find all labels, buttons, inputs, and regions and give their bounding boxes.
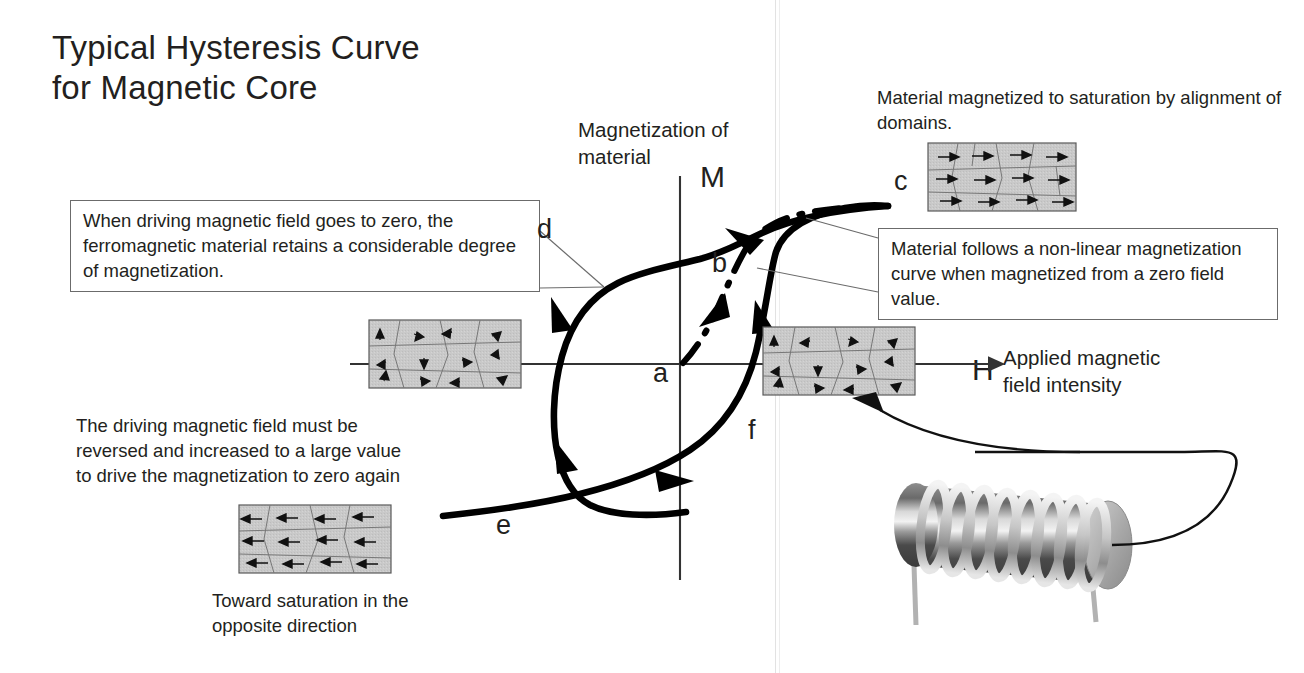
point-label-a: a — [653, 360, 668, 387]
domain-box-saturated — [928, 143, 1076, 211]
coil-to-domain-arrow — [852, 392, 1080, 452]
domain-box-random-left — [369, 320, 521, 388]
domain-box-random-right — [763, 327, 915, 395]
diagram-canvas — [0, 0, 1304, 673]
point-label-e: e — [496, 512, 511, 539]
solenoid-coil-icon — [894, 451, 1237, 625]
point-label-f: f — [748, 417, 756, 444]
domain-box-reversed — [239, 505, 391, 573]
point-label-b: b — [712, 250, 727, 277]
point-label-c: c — [894, 168, 908, 195]
initial-curve-arrow — [699, 293, 730, 327]
point-label-d: d — [537, 216, 552, 243]
